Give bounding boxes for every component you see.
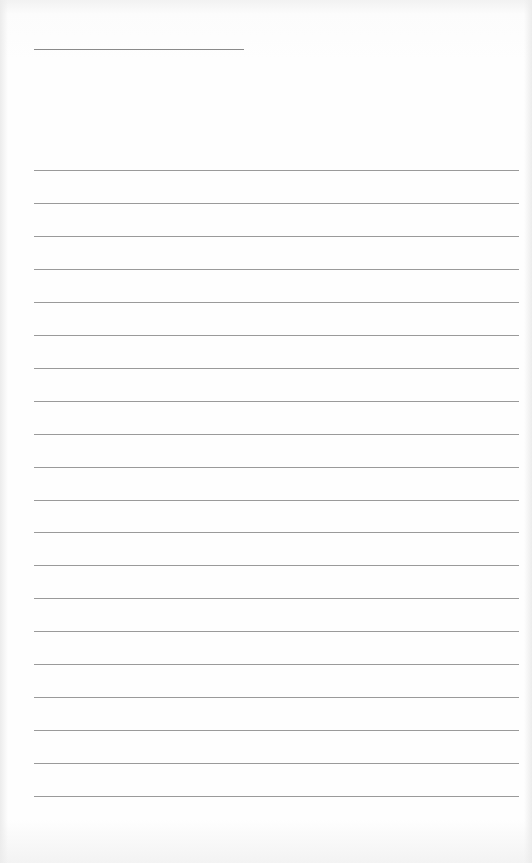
ruled-line — [34, 631, 519, 632]
ruled-line — [34, 697, 519, 698]
title-line — [34, 49, 244, 50]
ruled-line — [34, 269, 519, 270]
ruled-line — [34, 302, 519, 303]
ruled-line — [34, 565, 519, 566]
ruled-line — [34, 664, 519, 665]
ruled-line — [34, 434, 519, 435]
ruled-line — [34, 203, 519, 204]
ruled-line — [34, 796, 519, 797]
ruled-line — [34, 598, 519, 599]
ruled-line — [34, 368, 519, 369]
ruled-line — [34, 236, 519, 237]
ruled-line — [34, 500, 519, 501]
ruled-line — [34, 467, 519, 468]
ruled-line — [34, 532, 519, 533]
ruled-line — [34, 730, 519, 731]
paper-sheet — [0, 0, 532, 863]
paper-edge-right — [524, 0, 532, 863]
ruled-line — [34, 763, 519, 764]
ruled-line — [34, 170, 519, 171]
paper-edge-left — [0, 0, 8, 863]
ruled-line — [34, 401, 519, 402]
ruled-line — [34, 335, 519, 336]
